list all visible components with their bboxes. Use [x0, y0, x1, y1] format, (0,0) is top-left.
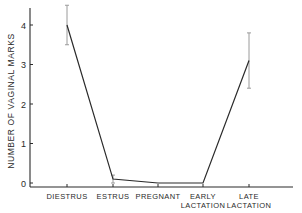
- x-tick-label: ESTRUS: [97, 192, 130, 201]
- x-tick-label: LATE: [239, 192, 259, 201]
- x-axis: DIESTRUSESTRUSPREGNANTEARLYLACTATIONLATE…: [30, 184, 293, 210]
- error-bars: [65, 5, 251, 183]
- series-line: [67, 25, 249, 183]
- data-series-line: [67, 25, 249, 183]
- x-tick-label: LACTATION: [181, 201, 226, 210]
- x-tick-label: PREGNANT: [136, 192, 181, 201]
- y-tick-label: 3: [21, 60, 26, 70]
- y-tick-label: 1: [21, 139, 26, 149]
- y-tick-label: 2: [21, 100, 26, 110]
- x-tick-label: LACTATION: [227, 201, 272, 210]
- x-tick-label: EARLY: [190, 192, 216, 201]
- vaginal-marks-line-chart: 01234 DIESTRUSESTRUSPREGNANTEARLYLACTATI…: [0, 0, 302, 213]
- y-axis: 01234: [21, 8, 33, 189]
- x-tick-label: DIESTRUS: [46, 192, 87, 201]
- y-tick-label: 0: [21, 179, 26, 189]
- y-axis-label: NUMBER OF VAGINAL MARKS: [6, 33, 16, 169]
- y-tick-label: 4: [21, 21, 26, 31]
